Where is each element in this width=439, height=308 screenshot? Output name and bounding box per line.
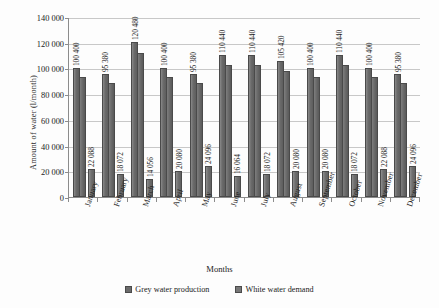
bar-grey-water-production[interactable]: 100 400 <box>160 68 173 197</box>
bar-value-label: 95 380 <box>101 53 110 73</box>
y-tick-label: 60 000 <box>41 116 64 125</box>
bar-group: 100 40022 088 <box>362 18 391 197</box>
bar-value-label: 110 440 <box>218 30 227 53</box>
bar-value-label: 20 080 <box>321 149 330 169</box>
bar-segment-side <box>167 77 173 197</box>
bar-group: 95 38024 096 <box>391 18 420 197</box>
y-tick-label: 140 000 <box>37 14 64 23</box>
bar-grey-water-production[interactable]: 105 420 <box>277 61 290 197</box>
y-tick-label: 100 000 <box>37 65 64 74</box>
x-axis-labels: JanuaryFebruaryMarchAprilMayJuneJulyAugu… <box>68 203 420 259</box>
legend-label: White water demand <box>245 285 313 294</box>
bar-segment-side <box>138 53 144 197</box>
x-axis-label-july: July <box>244 203 273 259</box>
bar-value-label: 120 480 <box>130 17 139 40</box>
bar-grey-water-production[interactable]: 100 400 <box>73 68 86 197</box>
y-tick-label: 40 000 <box>41 142 64 151</box>
bar-group: 110 44018 072 <box>332 18 361 197</box>
bar-segment-side <box>401 83 407 197</box>
bar-grey-water-production[interactable]: 100 400 <box>307 68 320 197</box>
y-tick-label: 80 000 <box>41 91 64 100</box>
bar-value-label: 24 096 <box>204 144 213 164</box>
legend-item[interactable]: White water demand <box>235 285 313 294</box>
legend-swatch <box>125 286 132 293</box>
bar-segment-front: 95 380 <box>102 74 109 197</box>
bar-value-label: 22 088 <box>87 147 96 167</box>
bar-segment-side <box>284 71 290 197</box>
bar-grey-water-production[interactable]: 110 440 <box>219 55 232 197</box>
x-axis-label-august: August <box>273 203 302 259</box>
y-axis-title: Amount of water (l/month) <box>29 38 38 208</box>
bar-group: 120 48014 056 <box>128 18 157 197</box>
bar-value-label: 20 080 <box>174 149 183 169</box>
bar-value-label: 100 400 <box>364 43 373 66</box>
bar-group: 95 38024 096 <box>186 18 215 197</box>
bar-segment-front: 110 440 <box>219 55 226 197</box>
bar-group: 110 44016 064 <box>215 18 244 197</box>
bar-segment-side <box>109 83 115 197</box>
bar-segment-side <box>343 65 349 197</box>
bar-value-label: 100 400 <box>72 43 81 66</box>
bar-segment-front: 100 400 <box>73 68 80 197</box>
x-axis-label-may: May <box>185 203 214 259</box>
chart-legend: Grey water productionWhite water demand <box>0 285 439 294</box>
bar-value-label: 95 380 <box>393 53 402 73</box>
x-axis-label-november: November <box>361 203 390 259</box>
y-tick-label: 20 000 <box>41 168 64 177</box>
bar-value-label: 18 072 <box>350 152 359 172</box>
bar-value-label: 110 440 <box>247 30 256 53</box>
bar-segment-front: 100 400 <box>160 68 167 197</box>
bar-segment-front: 105 420 <box>277 61 284 197</box>
bar-value-label: 105 420 <box>276 36 285 59</box>
x-axis-label-june: June <box>215 203 244 259</box>
bar-segment-front: 95 380 <box>394 74 401 197</box>
bar-value-label: 24 096 <box>408 144 417 164</box>
bar-value-label: 100 400 <box>306 43 315 66</box>
bar-grey-water-production[interactable]: 95 380 <box>102 74 115 197</box>
legend-label: Grey water production <box>135 285 209 294</box>
x-axis-label-december: December <box>391 203 420 259</box>
bar-group: 110 44018 072 <box>245 18 274 197</box>
bar-value-label: 14 056 <box>145 157 154 177</box>
bar-value-label: 100 400 <box>159 43 168 66</box>
bar-segment-side <box>372 77 378 197</box>
bar-value-label: 95 380 <box>189 53 198 73</box>
bar-segment-side <box>255 65 261 197</box>
bar-value-label: 18 072 <box>116 152 125 172</box>
y-tick-label: 0 <box>60 194 64 203</box>
bar-segment-front: 110 440 <box>248 55 255 197</box>
plot-area: 020 00040 00060 00080 000100 000120 0001… <box>68 18 420 198</box>
bar-value-label: 20 080 <box>291 149 300 169</box>
bar-grey-water-production[interactable]: 95 380 <box>190 74 203 197</box>
bar-grey-water-production[interactable]: 110 440 <box>248 55 261 197</box>
bar-group: 95 38018 072 <box>98 18 127 197</box>
bar-group: 100 40022 088 <box>69 18 98 197</box>
bar-value-label: 16 064 <box>233 155 242 175</box>
bar-value-label: 22 088 <box>379 147 388 167</box>
x-axis-label-september: September <box>303 203 332 259</box>
bar-segment-front: 120 480 <box>131 42 138 197</box>
x-axis-title: Months <box>0 264 439 274</box>
bar-segment-side <box>197 83 203 197</box>
x-axis-label-april: April <box>156 203 185 259</box>
legend-swatch <box>235 286 242 293</box>
bar-group: 100 40020 080 <box>157 18 186 197</box>
bar-grey-water-production[interactable]: 100 400 <box>365 68 378 197</box>
bar-grey-water-production[interactable]: 120 480 <box>131 42 144 197</box>
bar-segment-side <box>314 77 320 197</box>
bar-segment-front: 100 400 <box>307 68 314 197</box>
bar-grey-water-production[interactable]: 110 440 <box>336 55 349 197</box>
x-axis-label-january: January <box>68 203 97 259</box>
legend-item[interactable]: Grey water production <box>125 285 209 294</box>
bar-groups: 100 40022 08895 38018 072120 48014 05610… <box>69 18 420 197</box>
bar-grey-water-production[interactable]: 95 380 <box>394 74 407 197</box>
bar-group: 105 42020 080 <box>274 18 303 197</box>
bar-segment-front: 95 380 <box>190 74 197 197</box>
y-tick-label: 120 000 <box>37 39 64 48</box>
bar-value-label: 18 072 <box>262 152 271 172</box>
chart-figure: Amount of water (l/month) 020 00040 0006… <box>0 0 439 308</box>
x-axis-label-october: October <box>332 203 361 259</box>
x-axis-label-march: March <box>127 203 156 259</box>
bar-segment-side <box>226 65 232 197</box>
bar-segment-front: 110 440 <box>336 55 343 197</box>
